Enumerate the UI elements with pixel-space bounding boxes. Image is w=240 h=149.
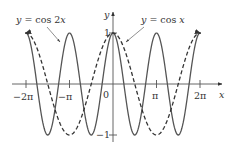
svg-text:y = cos 2x: y = cos 2x [15, 14, 66, 25]
tick-label-zero: 0 [103, 89, 109, 100]
annotation-cos-2x: y = cos 2x [15, 14, 66, 42]
x-axis-label: x [219, 89, 225, 100]
svg-text:y = cos x: y = cos x [140, 14, 185, 25]
tick-label-neg-pi: −π [58, 91, 72, 102]
annotation-cos-x: y = cos x [126, 14, 185, 42]
tick-label-2pi: 2π [194, 90, 206, 101]
tick-label-neg-2pi: −2π [13, 91, 33, 102]
y-axis-label: y [103, 9, 110, 20]
tick-label-neg-one: −1 [96, 129, 110, 140]
tick-label-one: 1 [104, 27, 110, 38]
cosine-comparison-chart: −2π −π 0 π 2π 1 −1 x y y = cos 2x y = co… [0, 0, 240, 149]
tick-label-pi: π [152, 90, 158, 101]
